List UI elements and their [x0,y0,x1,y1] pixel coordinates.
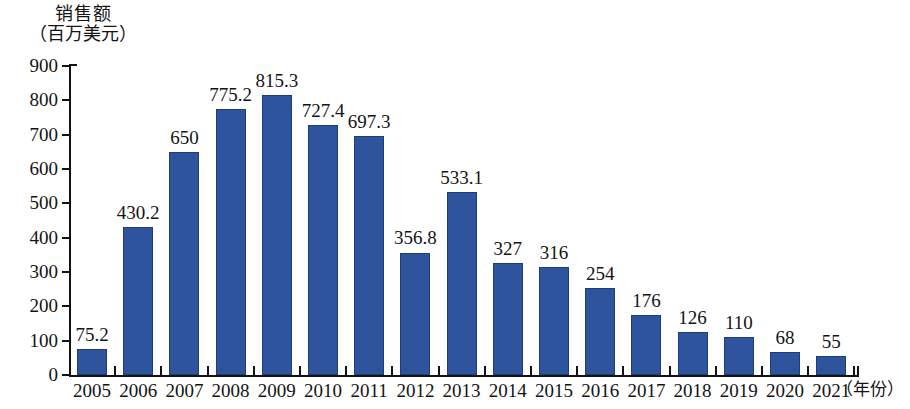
bar-value-label: 55 [786,332,876,351]
bar-value-label: 697.3 [324,112,414,131]
x-axis-unit-label: （年份） [836,381,904,398]
bar [400,253,430,376]
y-axis-tick-label: 900 [0,56,58,75]
bar-value-label: 815.3 [232,71,322,90]
bar [493,263,523,375]
y-axis-tick-label: 400 [0,228,58,247]
chart-subtitle-unit: （百万美元） [8,24,158,44]
bar [308,125,338,375]
chart-title: 销售额 [8,4,158,24]
bar [216,109,246,375]
bar-value-label: 316 [509,243,599,262]
y-axis-tick-label: 200 [0,296,58,315]
y-axis-tick-label: 500 [0,193,58,212]
bar-value-label: 533.1 [417,168,507,187]
bar-value-label: 650 [139,128,229,147]
bar-value-label: 356.8 [370,228,460,247]
bar [447,192,477,375]
bar [539,267,569,375]
y-axis-tick-label: 700 [0,125,58,144]
y-axis-tick-label: 600 [0,159,58,178]
bar [262,95,292,375]
sales-bar-chart: 销售额 （百万美元） 0100200300400500600700800900 … [0,0,910,409]
x-axis-line [69,375,859,377]
bar [169,152,199,375]
bar-value-label: 430.2 [93,203,183,222]
bar [678,332,708,375]
bar-value-label: 75.2 [47,325,137,344]
bar [354,136,384,375]
bar [816,356,846,375]
y-axis-tick-label: 0 [0,365,58,384]
bar [123,227,153,375]
bar [77,349,107,375]
bar-value-label: 254 [555,264,645,283]
y-axis-tick-label: 300 [0,262,58,281]
bar [770,352,800,375]
chart-title-block: 销售额 （百万美元） [8,4,158,44]
y-axis-tick-label: 800 [0,90,58,109]
